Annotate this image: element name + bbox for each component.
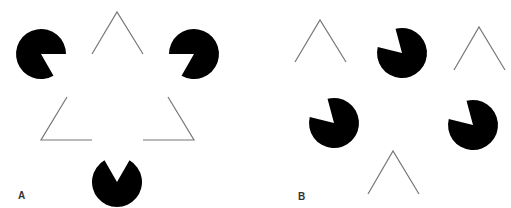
line-inducer	[143, 97, 194, 140]
pacman-inducer	[309, 98, 359, 148]
line-inducer	[454, 27, 505, 70]
line-inducer	[92, 12, 143, 54]
pacman-inducer	[448, 100, 498, 150]
panel-a	[16, 12, 219, 207]
pacman-inducer	[169, 29, 219, 79]
pacman-inducer	[16, 29, 66, 79]
panel-b-label: B	[298, 192, 305, 202]
panel-b	[295, 20, 505, 194]
line-inducer	[41, 97, 92, 140]
line-inducer	[295, 20, 346, 62]
kanizsa-figure: A B	[0, 0, 511, 208]
pacman-inducer	[377, 28, 427, 78]
figure-canvas	[0, 0, 511, 208]
panel-a-label: A	[18, 191, 25, 201]
pacman-inducer	[92, 160, 142, 207]
line-inducer	[368, 151, 419, 194]
